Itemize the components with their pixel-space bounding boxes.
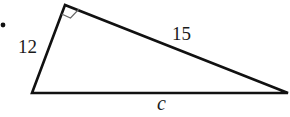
label-leg-12: 12 bbox=[18, 36, 37, 57]
label-hypotenuse-c: c bbox=[157, 92, 166, 114]
triangle-diagram: 12 15 c bbox=[0, 0, 290, 117]
bullet-dot bbox=[1, 23, 6, 28]
label-leg-15: 15 bbox=[172, 23, 191, 44]
